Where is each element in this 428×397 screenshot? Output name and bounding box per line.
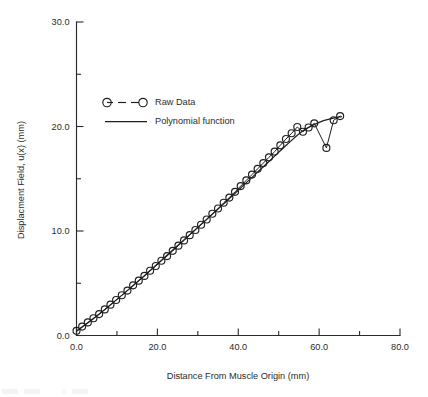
legend-marker-circle-right bbox=[139, 98, 147, 106]
y-tick-label: 0.0 bbox=[57, 331, 70, 341]
y-axis-ticks bbox=[77, 22, 84, 336]
chart-series bbox=[73, 113, 344, 335]
y-tick-label: 20.0 bbox=[52, 122, 70, 132]
raw-data-markers bbox=[73, 113, 344, 335]
displacement-field-chart: 0.010.020.030.0 0.020.040.060.080.0 Raw … bbox=[0, 0, 428, 397]
y-tick-label: 10.0 bbox=[52, 226, 70, 236]
page-edge-artifact bbox=[2, 389, 88, 394]
x-tick-label: 40.0 bbox=[229, 342, 247, 352]
x-tick-label: 80.0 bbox=[391, 342, 409, 352]
x-tick-label: 20.0 bbox=[148, 342, 166, 352]
legend-label-polynomial-function: Polynomial function bbox=[155, 116, 235, 126]
y-axis-title: Displacment Field, u(x) (mm) bbox=[16, 121, 26, 239]
raw-data-line bbox=[77, 116, 341, 331]
chart-figure: 0.010.020.030.0 0.020.040.060.080.0 Raw … bbox=[0, 0, 428, 397]
y-tick-label: 30.0 bbox=[52, 17, 70, 27]
x-axis-title: Distance From Muscle Origin (mm) bbox=[167, 371, 309, 381]
y-axis-tick-labels: 0.010.020.030.0 bbox=[52, 17, 70, 341]
legend-label-raw-data: Raw Data bbox=[155, 97, 196, 107]
x-axis-ticks bbox=[77, 329, 401, 336]
legend-item-polynomial-function: Polynomial function bbox=[105, 116, 235, 126]
x-tick-label: 0.0 bbox=[70, 342, 83, 352]
x-tick-label: 60.0 bbox=[310, 342, 328, 352]
polynomial-function-line bbox=[77, 117, 342, 332]
x-axis-tick-labels: 0.020.040.060.080.0 bbox=[70, 342, 409, 352]
chart-legend: Raw Data Polynomial function bbox=[103, 97, 235, 126]
legend-item-raw-data: Raw Data bbox=[103, 97, 196, 107]
